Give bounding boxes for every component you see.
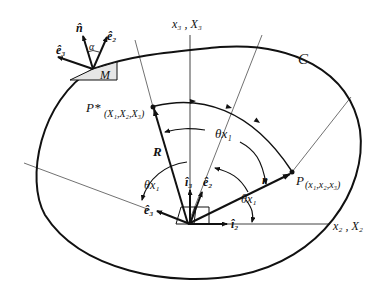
curve-c-label: C bbox=[298, 51, 309, 67]
arc-theta-top-left bbox=[165, 129, 205, 132]
x2-axis-label: x₂ , X₂ bbox=[332, 219, 363, 233]
i3-hat-label: î₃ bbox=[185, 175, 193, 189]
theta-left-label: θx₁ bbox=[144, 178, 159, 192]
theta-right-label: θx₁ bbox=[241, 192, 256, 206]
x3-axis-label: x₃ , X₃ bbox=[171, 17, 202, 31]
radial-line-p bbox=[292, 97, 351, 172]
e3-hat-label: ê₃ bbox=[144, 203, 154, 217]
radial-line-pstar bbox=[135, 40, 153, 107]
theta-top-label: θx₁ bbox=[215, 126, 232, 141]
e3-hat-top-label: ê₃ bbox=[56, 43, 66, 57]
point-p-star bbox=[151, 105, 156, 110]
p-label: P bbox=[295, 173, 304, 188]
p-star-label: P* bbox=[85, 100, 101, 115]
p-coords: (x₁,x₂,x₃) bbox=[305, 179, 341, 191]
e2-hat-top-label: ê₂ bbox=[107, 29, 117, 43]
i2-hat-label: î₂ bbox=[231, 217, 239, 231]
n-hat-label: n̂ bbox=[76, 21, 83, 35]
diagram-canvas: C M x₃ , X₃ x₂ , X₂ n̂ α ê₂ ê₃ î₃ ê₂ ê₃ … bbox=[0, 0, 389, 288]
e3-hat-top-vector bbox=[58, 57, 93, 69]
p-star-coords: (X₁,X₂,X₃) bbox=[104, 108, 145, 120]
rotation-diagram: C M x₃ , X₃ x₂ , X₂ n̂ α ê₂ ê₃ î₃ ê₂ ê₃ … bbox=[0, 0, 389, 288]
point-p bbox=[290, 170, 295, 175]
e2-hat-label: ê₂ bbox=[203, 175, 213, 189]
boundary-curve-c bbox=[36, 46, 360, 279]
alpha-label: α bbox=[89, 41, 95, 52]
arc-theta-mid bbox=[215, 168, 248, 192]
radial-line-e3 bbox=[24, 163, 150, 210]
vector-r-capital-label: R bbox=[152, 144, 162, 159]
point-m-label: M bbox=[99, 68, 111, 82]
